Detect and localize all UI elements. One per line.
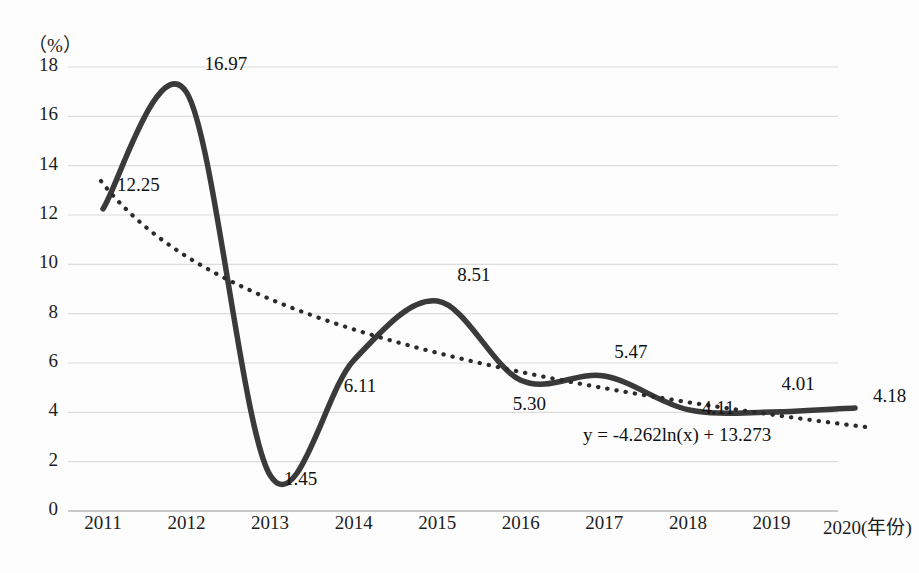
y-axis-tick-label: 4 [8, 399, 58, 421]
x-axis-tick-label: 2016 [502, 512, 540, 534]
y-axis-tick-label: 10 [8, 251, 58, 273]
data-point-label: 4.18 [873, 385, 906, 407]
y-axis-unit-label: （%） [28, 30, 82, 57]
data-point-label: 5.30 [513, 393, 546, 415]
x-axis-tick-label: 2019 [752, 512, 790, 534]
y-axis-tick-label: 14 [8, 153, 58, 175]
x-axis-tick-label: 2017 [585, 512, 623, 534]
chart-container: （%） 181614121086420 20112012201320142015… [0, 0, 919, 573]
x-axis-tick-label: 2020(年份) [823, 512, 912, 539]
y-axis-tick-label: 18 [8, 54, 58, 76]
y-axis-tick-label: 16 [8, 103, 58, 125]
y-axis-tick-label: 6 [8, 350, 58, 372]
data-point-label: 4.11 [702, 397, 735, 419]
data-point-label: 4.01 [781, 373, 814, 395]
data-point-label: 5.47 [614, 341, 647, 363]
y-axis-tick-label: 12 [8, 202, 58, 224]
x-axis-tick-label: 2011 [84, 512, 121, 534]
x-axis-tick-label: 2013 [251, 512, 289, 534]
data-point-label: 8.51 [457, 264, 490, 286]
y-axis-tick-label: 2 [8, 449, 58, 471]
data-point-label: 6.11 [344, 375, 377, 397]
data-point-label: 16.97 [205, 53, 248, 75]
chart-plot-area [0, 0, 919, 573]
x-axis-tick-label: 2014 [335, 512, 373, 534]
y-axis-tick-label: 8 [8, 301, 58, 323]
data-point-label: 1.45 [284, 468, 317, 490]
data-point-label: 12.25 [117, 174, 160, 196]
x-axis-tick-label: 2015 [418, 512, 456, 534]
x-axis-tick-label: 2012 [168, 512, 206, 534]
y-axis-tick-label: 0 [8, 498, 58, 520]
trendline-equation-label: y = -4.262ln(x) + 13.273 [583, 424, 771, 446]
x-axis-tick-label: 2018 [669, 512, 707, 534]
